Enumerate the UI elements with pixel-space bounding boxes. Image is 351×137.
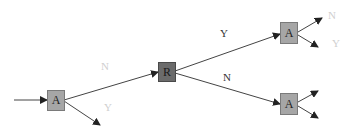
node-top-right: A <box>280 22 298 44</box>
edge-label-top-out-lower: Y <box>332 38 340 49</box>
edge-bottom-out-lower <box>298 106 318 118</box>
node-start-label: A <box>52 93 61 108</box>
edge-bottom-out-upper <box>298 91 318 102</box>
node-bottom-right: A <box>280 93 298 115</box>
edge-top-out-upper <box>298 18 322 32</box>
node-middle-label: R <box>163 65 171 80</box>
edge-label-start-to-middle: N <box>101 61 109 72</box>
edge-label-middle-to-top: Y <box>220 28 228 39</box>
edge-start-to-middle <box>64 72 158 100</box>
node-bottom-right-label: A <box>285 97 294 112</box>
edge-label-top-out-upper: N <box>328 10 336 21</box>
edge-label-start-out: Y <box>104 102 112 113</box>
edge-top-out-lower <box>298 35 318 47</box>
node-middle: R <box>158 62 176 82</box>
edge-middle-to-top <box>175 34 280 71</box>
node-start: A <box>47 90 65 111</box>
edge-label-middle-to-bottom: N <box>223 72 231 83</box>
node-top-right-label: A <box>285 26 294 41</box>
edge-start-out <box>64 101 100 125</box>
